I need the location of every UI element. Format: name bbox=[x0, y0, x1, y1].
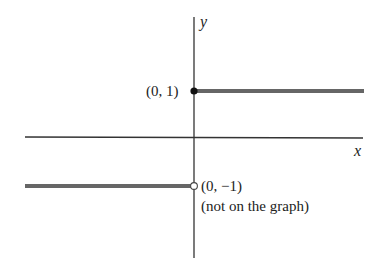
open-point bbox=[191, 183, 198, 190]
filled-point bbox=[190, 87, 197, 94]
y-axis-label: y bbox=[198, 13, 208, 31]
lower-point-note: (not on the graph) bbox=[201, 198, 309, 215]
upper-point-label: (0, 1) bbox=[146, 83, 179, 100]
x-axis-label: x bbox=[353, 142, 361, 159]
lower-point-label: (0, −1) bbox=[201, 178, 242, 195]
step-function-graph: y x (0, 1) (0, −1) (not on the graph) bbox=[0, 0, 383, 266]
